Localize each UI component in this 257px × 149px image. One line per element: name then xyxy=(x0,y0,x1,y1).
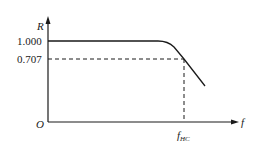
fhc-label: fHC xyxy=(177,130,190,145)
x-axis-arrow-icon xyxy=(231,120,239,125)
y-tick-0707: 0.707 xyxy=(17,54,42,65)
origin-label: O xyxy=(36,119,44,130)
y-axis-label: R xyxy=(37,21,44,32)
response-curve xyxy=(48,41,205,86)
y-tick-1000: 1.000 xyxy=(17,36,42,47)
x-axis-label: f xyxy=(241,117,244,128)
fhc-subscript: HC xyxy=(180,135,190,143)
y-axis-arrow-icon xyxy=(46,16,51,24)
